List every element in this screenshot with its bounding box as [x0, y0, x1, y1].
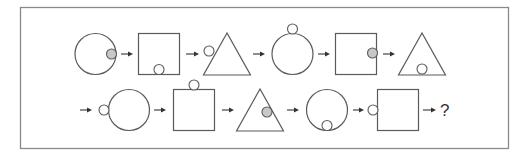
- arrow-head-icon: [229, 108, 234, 113]
- answer-placeholder: ?: [440, 101, 449, 120]
- arrow-head-icon: [431, 108, 436, 113]
- arrow-head-icon: [260, 52, 265, 57]
- empty-dot: [288, 24, 298, 34]
- empty-dot: [417, 64, 427, 74]
- square-shape: [174, 90, 215, 131]
- arrow-head-icon: [161, 108, 166, 113]
- sequence-marks: [75, 24, 446, 131]
- empty-dot: [189, 80, 199, 90]
- filled-dot: [107, 49, 117, 59]
- empty-dot: [322, 121, 332, 131]
- filled-dot: [262, 107, 272, 117]
- arrow-head-icon: [87, 108, 92, 113]
- arrow-head-icon: [325, 52, 330, 57]
- filled-dot: [368, 48, 378, 58]
- empty-dot: [99, 105, 109, 115]
- arrow-head-icon: [294, 108, 299, 113]
- empty-dot: [204, 46, 214, 56]
- arrow-head-icon: [359, 108, 364, 113]
- arrow-head-icon: [390, 52, 395, 57]
- circle-shape: [272, 34, 313, 75]
- square-shape: [378, 90, 419, 131]
- triangle-shape: [237, 89, 284, 131]
- circle-shape: [109, 90, 150, 131]
- arrow-head-icon: [128, 52, 133, 57]
- empty-dot: [154, 65, 164, 75]
- empty-dot: [368, 105, 378, 115]
- shape-sequence-diagram: ?: [0, 0, 525, 154]
- arrow-head-icon: [194, 52, 199, 57]
